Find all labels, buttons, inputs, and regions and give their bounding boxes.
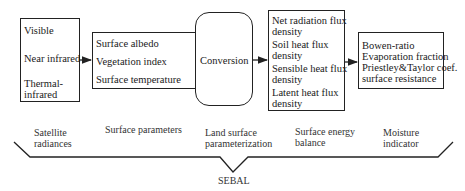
- priestley-taylor: Priestley&Taylor coef.: [362, 62, 457, 73]
- sensible-heat: Sensible heat flux: [272, 63, 347, 74]
- surface-resistance: surface resistance: [362, 73, 436, 84]
- band-thermal-2: infrared: [24, 89, 57, 100]
- soil-heat: Soil heat flux: [272, 39, 329, 50]
- surface-temperature: Surface temperature: [96, 74, 181, 85]
- surface-albedo: Surface albedo: [96, 38, 159, 49]
- stage-label-energy-2: balance: [295, 137, 326, 148]
- surface-parameters-box: Surface albedo Vegetation index Surface …: [92, 32, 200, 89]
- moisture-indicators-box: Bowen-ratio Evaporation fraction Priestl…: [358, 32, 444, 89]
- band-near-infrared: Near infrared: [24, 53, 80, 64]
- net-radiation-2: density: [272, 26, 302, 37]
- soil-heat-2: density: [272, 50, 302, 61]
- stage-label-moisture: Moisture: [383, 127, 419, 138]
- stage-label-energy: Surface energy: [295, 126, 355, 137]
- sebal-label: SEBAL: [218, 175, 250, 186]
- band-visible: Visible: [24, 25, 54, 36]
- vegetation-index: Vegetation index: [96, 56, 167, 67]
- band-thermal: Thermal-: [24, 78, 63, 89]
- latent-heat: Latent heat flux: [272, 87, 338, 98]
- energy-flux-box: Net radiation flux density Soil heat flu…: [268, 10, 345, 111]
- stage-label-surface: Surface parameters: [105, 124, 182, 135]
- sensible-heat-2: density: [272, 74, 302, 85]
- stage-label-satellite: Satellite: [34, 127, 67, 138]
- stage-label-satellite-2: radiances: [34, 138, 72, 149]
- conversion-label: Conversion: [200, 55, 248, 66]
- satellite-bands-box: Visible Near infrared Thermal- infrared: [20, 18, 80, 102]
- net-radiation: Net radiation flux: [272, 15, 347, 26]
- stage-label-land: Land surface: [205, 127, 257, 138]
- evaporation-fraction: Evaporation fraction: [362, 51, 449, 62]
- bowen-ratio: Bowen-ratio: [362, 40, 415, 51]
- stage-label-land-2: parameterization: [205, 138, 272, 149]
- conversion-box: Conversion: [195, 12, 253, 106]
- latent-heat-2: density: [272, 98, 302, 109]
- stage-label-moisture-2: indicator: [383, 138, 419, 149]
